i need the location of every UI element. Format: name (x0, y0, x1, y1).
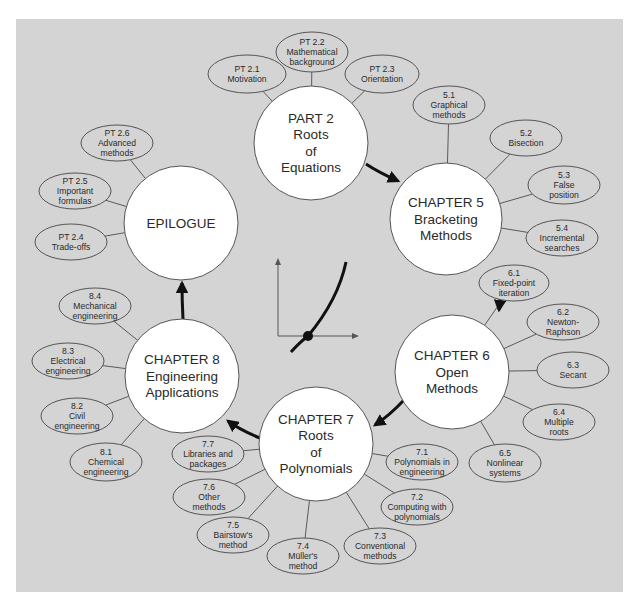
label-line: methods (433, 110, 466, 120)
label-line: Roots (293, 127, 329, 142)
label-line: PT 2.1 (234, 64, 259, 74)
label-line: 5.2 (520, 128, 532, 138)
label-line: PART 2 (288, 111, 334, 126)
label-line: 8.4 (89, 291, 101, 301)
label-line: Libraries and (183, 449, 233, 459)
section-node-5-1[interactable]: 5.1Graphicalmethods (413, 86, 485, 124)
section-node-5-3[interactable]: 5.3Falseposition (528, 166, 600, 204)
section-node-6-3[interactable]: 6.3Secant (537, 352, 609, 388)
section-node-6-5[interactable]: 6.5Nonlinearsystems (469, 444, 541, 482)
label-line: 6.5 (499, 448, 511, 458)
label-line: 6.2 (557, 307, 569, 317)
label-line: Fixed-point (493, 278, 536, 288)
section-node-7-3[interactable]: 7.3Conventionalmethods (344, 528, 416, 564)
label-line: Incremental (540, 233, 585, 243)
hub-node-part2[interactable]: PART 2RootsofEquations (254, 86, 368, 200)
section-node-8-2[interactable]: 8.2Civilengineering (41, 398, 113, 434)
label-line: formulas (59, 196, 92, 206)
hub-node-epilogue[interactable]: EPILOGUE (124, 166, 238, 280)
label-line: Müller's (288, 551, 317, 561)
label-line: methods (193, 502, 226, 512)
label-line: Orientation (361, 74, 403, 84)
label-line: CHAPTER 6 (414, 348, 490, 363)
label-line: Motivation (227, 74, 266, 84)
label-line: 6.3 (567, 360, 579, 370)
label-line: methods (101, 148, 134, 158)
section-node-pt2-3[interactable]: PT 2.3Orientation (345, 55, 419, 93)
label-line: 8.2 (71, 401, 83, 411)
label-line: of (305, 144, 317, 159)
section-node-pt2-1[interactable]: PT 2.1Motivation (208, 55, 286, 93)
label-line: methods (364, 551, 397, 561)
flow-arrow-5 (182, 283, 183, 319)
label-line: 6.1 (508, 268, 520, 278)
label-line: Polynomials in (394, 457, 450, 467)
label-line: Roots (298, 428, 334, 443)
label-line: Equations (281, 160, 341, 175)
hub-node-chapter5[interactable]: CHAPTER 5BracketingMethods (390, 163, 502, 275)
label-line: False (553, 180, 574, 190)
label-line: CHAPTER 7 (278, 412, 354, 427)
label-line: Electrical (51, 356, 86, 366)
label-line: engineering (46, 366, 91, 376)
label-line: Newton- (547, 317, 579, 327)
label-line: Open (435, 365, 468, 380)
section-node-8-3[interactable]: 8.3Electricalengineering (32, 343, 104, 379)
label-line: engineering (55, 421, 100, 431)
label-line: Multiple (544, 417, 574, 427)
label-line: Computing with (387, 502, 446, 512)
label-line: Mathematical (286, 47, 337, 57)
label-line: Polynomials (280, 461, 353, 476)
label-line: 5.4 (556, 223, 568, 233)
label-line: Methods (426, 381, 478, 396)
label-line: Secant (560, 370, 587, 380)
label-line: Mechanical (73, 301, 117, 311)
label-line: searches (545, 243, 580, 253)
section-node-7-6[interactable]: 7.6Othermethods (173, 479, 245, 515)
label-line: position (549, 190, 579, 200)
section-node-8-1[interactable]: 8.1Chemicalengineering (70, 443, 142, 481)
section-node-pt2-2[interactable]: PT 2.2Mathematicalbackground (276, 32, 348, 72)
label-line: Trade-offs (52, 242, 91, 252)
label-line: PT 2.6 (104, 128, 129, 138)
hub-node-chapter6[interactable]: CHAPTER 6OpenMethods (395, 315, 509, 429)
label-line: 7.6 (203, 482, 215, 492)
section-node-7-2[interactable]: 7.2Computing withpolynomials (381, 489, 453, 525)
label-line: method (219, 540, 248, 550)
hub-node-chapter7[interactable]: CHAPTER 7RootsofPolynomials (259, 387, 373, 501)
label-line: engineering (400, 467, 445, 477)
label-line: Advanced (98, 138, 136, 148)
section-node-7-4[interactable]: 7.4Müller'smethod (267, 538, 339, 574)
label-line: Bracketing (414, 212, 478, 227)
section-node-7-7[interactable]: 7.7Libraries andpackages (172, 436, 244, 472)
label-line: Bairstow's (214, 530, 253, 540)
label-line: Chemical (88, 457, 124, 467)
label-line: 6.4 (553, 407, 565, 417)
label-line: PT 2.5 (62, 176, 87, 186)
label-line: 7.7 (202, 439, 214, 449)
section-node-pt2-4[interactable]: PT 2.4Trade-offs (35, 224, 107, 260)
label-line: Methods (420, 228, 472, 243)
section-node-6-2[interactable]: 6.2Newton-Raphson (527, 304, 599, 340)
section-node-7-5[interactable]: 7.5Bairstow'smethod (197, 517, 269, 553)
label-line: engineering (73, 311, 118, 321)
label-line: packages (190, 459, 227, 469)
section-node-6-4[interactable]: 6.4Multipleroots (523, 404, 595, 440)
section-node-8-4[interactable]: 8.4Mechanicalengineering (59, 288, 131, 324)
label-line: Other (198, 492, 220, 502)
label-line: 8.1 (100, 447, 112, 457)
section-node-5-2[interactable]: 5.2Bisection (490, 120, 562, 156)
section-node-6-1[interactable]: 6.1Fixed-pointiteration (479, 265, 549, 301)
label-line: method (289, 561, 318, 571)
label-line: EPILOGUE (146, 216, 215, 231)
hub-node-chapter8[interactable]: CHAPTER 8EngineeringApplications (125, 319, 239, 433)
label-line: 8.3 (62, 346, 74, 356)
section-node-7-1[interactable]: 7.1Polynomials inengineering (386, 444, 458, 480)
section-node-pt2-5[interactable]: PT 2.5Importantformulas (39, 173, 111, 209)
section-node-5-4[interactable]: 5.4Incrementalsearches (526, 220, 598, 256)
label-line: 7.3 (374, 531, 386, 541)
roots-of-equations-concept-map: PART 2RootsofEquationsCHAPTER 5Bracketin… (0, 0, 638, 607)
label-line: 7.5 (227, 520, 239, 530)
section-node-pt2-6[interactable]: PT 2.6Advancedmethods (81, 125, 153, 161)
label-line: iteration (499, 288, 530, 298)
